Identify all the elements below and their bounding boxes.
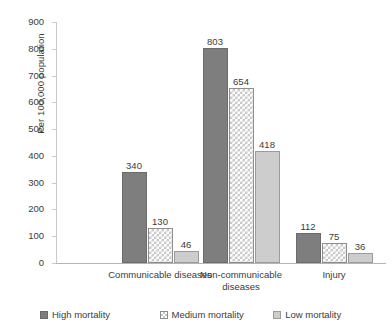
bar-value-label: 654: [233, 76, 249, 87]
legend-item-high-mortality[interactable]: High mortality: [40, 309, 160, 320]
bar-value-label: 418: [259, 139, 275, 150]
bar[interactable]: 340: [122, 172, 147, 263]
y-tick-mark: [52, 209, 56, 210]
y-tick-label: 500: [4, 123, 44, 134]
x-axis-line: [56, 263, 386, 264]
legend-label-low: Low mortality: [285, 309, 341, 320]
y-tick-label: 800: [4, 43, 44, 54]
category-label-line: Injury: [274, 269, 392, 281]
y-tick-label: 600: [4, 96, 44, 107]
y-tick-mark: [52, 236, 56, 237]
y-tick-mark: [52, 76, 56, 77]
bar-group: 803654418: [203, 22, 280, 263]
bar[interactable]: 654: [229, 88, 254, 263]
bar-value-label: 112: [300, 221, 315, 232]
legend-label-high: High mortality: [52, 309, 110, 320]
bar-value-label: 36: [355, 241, 366, 252]
bar[interactable]: 130: [148, 228, 173, 263]
x-axis-category-label: Injury: [274, 269, 392, 281]
bar-value-label: 340: [126, 160, 142, 171]
y-tick-mark: [52, 156, 56, 157]
y-tick-mark: [52, 263, 56, 264]
y-tick-label: 200: [4, 203, 44, 214]
legend-item-medium-mortality[interactable]: Medium mortality: [160, 309, 274, 320]
legend-label-medium: Medium mortality: [172, 309, 244, 320]
y-tick-mark: [52, 22, 56, 23]
y-tick-label: 100: [4, 230, 44, 241]
y-tick-label: 400: [4, 150, 44, 161]
bar[interactable]: 46: [174, 251, 199, 263]
plot-area: 0100200300400500600700800900 34013046803…: [56, 22, 386, 263]
bar-group: 1127536: [296, 22, 373, 263]
bar[interactable]: 803: [203, 48, 228, 263]
y-tick-label: 300: [4, 177, 44, 188]
legend-item-low-mortality[interactable]: Low mortality: [273, 309, 360, 320]
category-label-line: diseases: [181, 281, 301, 293]
y-tick-mark: [52, 102, 56, 103]
bar[interactable]: 36: [348, 253, 373, 263]
y-tick-label: 900: [4, 16, 44, 27]
y-axis-line: [56, 22, 57, 263]
bar-group: 34013046: [122, 22, 199, 263]
bar[interactable]: 418: [255, 151, 280, 263]
y-tick-mark: [52, 183, 56, 184]
legend-swatch-icon-medium: [160, 311, 168, 319]
bar-value-label: 75: [329, 231, 340, 242]
bar[interactable]: 112: [296, 233, 321, 263]
y-tick-label: 0: [4, 257, 44, 268]
y-tick-mark: [52, 49, 56, 50]
bar-chart: Per 100,000 population 01002003004005006…: [0, 0, 392, 336]
bar-value-label: 46: [181, 239, 192, 250]
y-tick-mark: [52, 129, 56, 130]
chart-legend: High mortality Medium mortality Low mort…: [40, 309, 360, 320]
legend-swatch-icon-high: [40, 311, 48, 319]
y-tick-label: 700: [4, 70, 44, 81]
legend-swatch-icon-low: [273, 311, 281, 319]
bar[interactable]: 75: [322, 243, 347, 263]
bar-value-label: 803: [207, 36, 223, 47]
bar-value-label: 130: [152, 216, 168, 227]
